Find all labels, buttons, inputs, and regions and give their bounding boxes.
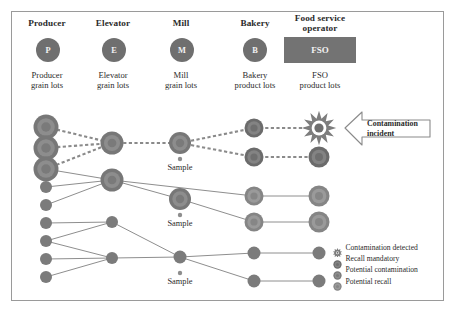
ring-node-light-icon (333, 277, 342, 286)
legend-label: Potential recall (346, 278, 392, 286)
legend-item-potential-recall: Potential recall (333, 276, 441, 287)
column-badge-bakery: B (243, 38, 267, 62)
column-header-elevator: Elevator (82, 18, 144, 28)
column-header-bakery: Bakery (222, 18, 288, 28)
column-subtitle-elevator: Elevatorgrain lots (82, 70, 144, 90)
column-header-producer: Producer (16, 18, 78, 28)
diagram-canvas: Producer P Producergrain lots Elevator E… (0, 0, 457, 313)
column-subtitle-producer: Producergrain lots (16, 70, 78, 90)
column-header-mill: Mill (150, 18, 212, 28)
sample-label-mill-3: Sample (152, 277, 208, 286)
callout-label: Contaminationincident (367, 119, 445, 138)
column-subtitle-mill: Millgrain lots (150, 70, 212, 90)
sample-label-mill-1: Sample (152, 163, 208, 172)
column-subtitle-bakery: Bakeryproduct lots (218, 70, 292, 90)
column-subtitle-fso: FSOproduct lots (283, 70, 357, 90)
legend-item-contamination-detected: Contamination detected (333, 242, 441, 253)
column-badge-elevator: E (102, 38, 126, 62)
sample-label-mill-2: Sample (152, 219, 208, 228)
legend-label: Potential contamination (346, 266, 418, 274)
legend: Contamination detected Recall mandatory (333, 242, 441, 288)
legend-label: Recall mandatory (346, 255, 400, 263)
column-badge-producer: P (36, 38, 60, 62)
legend-label: Contamination detected (346, 244, 418, 252)
starburst-node-icon (333, 243, 342, 252)
column-badge-mill: M (170, 38, 194, 62)
ring-node-mid-icon (333, 266, 342, 275)
column-header-fso: Food serviceoperator (283, 13, 357, 33)
ring-node-dark-icon (333, 255, 342, 264)
column-badge-fso: FSO (284, 37, 356, 63)
legend-item-potential-contamination: Potential contamination (333, 265, 441, 276)
legend-item-recall-mandatory: Recall mandatory (333, 253, 441, 264)
